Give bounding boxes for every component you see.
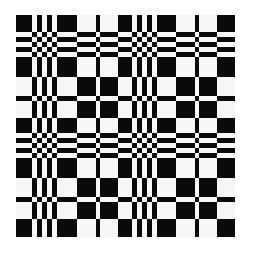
weave-cell bbox=[57, 15, 77, 32]
weave-cell bbox=[217, 15, 235, 32]
weave-cell bbox=[217, 118, 235, 133]
weave-cell bbox=[57, 101, 77, 118]
weave-cell bbox=[77, 158, 96, 178]
weave-cell bbox=[77, 101, 96, 118]
weave-cell bbox=[100, 77, 118, 96]
weave-cell bbox=[100, 101, 118, 118]
weave-cell bbox=[16, 77, 32, 96]
weave-cell bbox=[217, 101, 235, 118]
weave-cell bbox=[118, 178, 132, 197]
weave-cell bbox=[100, 178, 118, 197]
weave-cell bbox=[16, 57, 32, 77]
weave-cell bbox=[157, 118, 176, 133]
weave-cell bbox=[199, 202, 217, 219]
weave-cell bbox=[157, 77, 176, 96]
weave-cell bbox=[118, 158, 132, 178]
weave-cell bbox=[77, 77, 96, 96]
weave-cell bbox=[16, 178, 32, 197]
weave-cell bbox=[118, 118, 132, 133]
weave-cell bbox=[176, 15, 195, 32]
weave-cell bbox=[176, 219, 195, 237]
weave-cell bbox=[118, 202, 132, 219]
weave-cell bbox=[217, 57, 235, 77]
weave-cell bbox=[176, 202, 195, 219]
weave-cell bbox=[57, 118, 77, 133]
weave-cell bbox=[199, 77, 217, 96]
weave-cell bbox=[57, 77, 77, 96]
weave-cell bbox=[100, 158, 118, 178]
weave-cell bbox=[57, 158, 77, 178]
weave-cell bbox=[57, 57, 77, 77]
weave-cell bbox=[157, 202, 176, 219]
weave-cell bbox=[77, 219, 96, 237]
weave-cell bbox=[77, 178, 96, 197]
weave-cell bbox=[199, 158, 217, 178]
weave-cell bbox=[118, 15, 132, 32]
weave-cell bbox=[57, 219, 77, 237]
weave-cell bbox=[100, 202, 118, 219]
weave-cell bbox=[176, 57, 195, 77]
weave-cell bbox=[16, 15, 32, 32]
weave-cell bbox=[100, 15, 118, 32]
weave-cell bbox=[77, 15, 96, 32]
weave-cell bbox=[118, 77, 132, 96]
weave-cell bbox=[157, 57, 176, 77]
weave-cell bbox=[217, 158, 235, 178]
weave-cell bbox=[100, 57, 118, 77]
weave-cell bbox=[77, 202, 96, 219]
weave-cell bbox=[157, 219, 176, 237]
weave-cell bbox=[118, 101, 132, 118]
weave-cell bbox=[157, 15, 176, 32]
weave-cell bbox=[199, 15, 217, 32]
weave-cell bbox=[118, 219, 132, 237]
weave-cell bbox=[77, 118, 96, 133]
weave-cell bbox=[199, 57, 217, 77]
weave-cell bbox=[100, 219, 118, 237]
weave-cell bbox=[217, 77, 235, 96]
weave-cell bbox=[217, 202, 235, 219]
weave-cell bbox=[16, 219, 32, 237]
weave-cell bbox=[16, 202, 32, 219]
weave-cell bbox=[176, 158, 195, 178]
weave-cell bbox=[16, 158, 32, 178]
weave-pattern bbox=[16, 15, 240, 247]
weave-cell bbox=[176, 178, 195, 197]
weave-cell bbox=[176, 77, 195, 96]
weave-cell bbox=[199, 118, 217, 133]
weave-cell bbox=[118, 57, 132, 77]
weave-cell bbox=[16, 118, 32, 133]
weave-cell bbox=[217, 219, 235, 237]
weave-cell bbox=[199, 101, 217, 118]
weave-cell bbox=[199, 178, 217, 197]
weave-cell bbox=[100, 118, 118, 133]
weave-cell bbox=[157, 101, 176, 118]
weave-cell bbox=[57, 178, 77, 197]
weave-cell bbox=[157, 158, 176, 178]
weave-cell bbox=[176, 101, 195, 118]
weave-cell bbox=[157, 178, 176, 197]
weave-cell bbox=[57, 202, 77, 219]
weave-cell bbox=[217, 178, 235, 197]
weave-cell bbox=[77, 57, 96, 77]
weave-cell bbox=[199, 219, 217, 237]
weave-cell bbox=[16, 101, 32, 118]
weave-cell bbox=[176, 118, 195, 133]
